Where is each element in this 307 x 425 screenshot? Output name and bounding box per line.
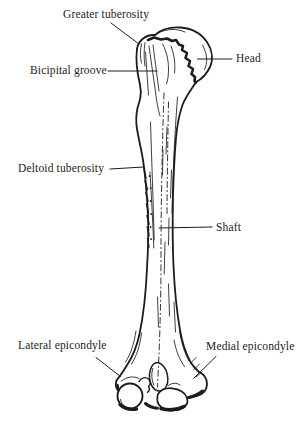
label-medial-epicondyle: Medial epicondyle <box>206 340 294 353</box>
leader-shaft <box>159 227 212 228</box>
leader-deltoid-tuberosity <box>110 167 144 169</box>
accent-mid-bottom <box>146 404 158 409</box>
leader-greater-tuberosity <box>111 23 139 44</box>
condyle-top-arc-right <box>169 383 181 385</box>
condyle-top-arc-left <box>122 377 140 381</box>
humerus-diagram: Greater tuberosity Bicipital groove Head… <box>0 0 307 425</box>
humeral-head-outline <box>155 27 212 82</box>
left-contour <box>117 49 149 381</box>
label-head: Head <box>236 52 261 65</box>
leader-lines <box>96 23 232 379</box>
label-lateral-epicondyle: Lateral epicondyle <box>18 339 107 352</box>
leader-lateral-epicondyle <box>96 358 121 377</box>
bone-outline <box>116 27 212 398</box>
label-bicipital-groove: Bicipital groove <box>30 64 107 77</box>
label-deltoid-tuberosity: Deltoid tuberosity <box>18 162 104 175</box>
accent-lateral-face <box>118 385 119 391</box>
distal-condyles <box>118 362 188 410</box>
label-shaft: Shaft <box>216 221 241 234</box>
label-greater-tuberosity: Greater tuberosity <box>63 8 149 21</box>
accent-medial-underside <box>189 391 203 398</box>
